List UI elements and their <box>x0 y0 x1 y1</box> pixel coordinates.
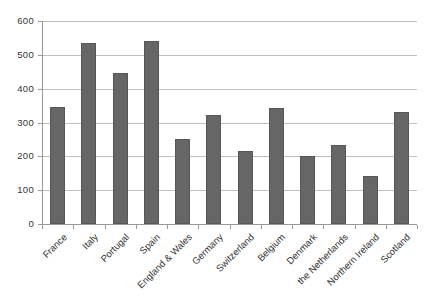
x-axis-tick <box>417 225 418 229</box>
x-axis-tick <box>230 225 231 229</box>
gridline <box>42 21 417 22</box>
x-axis-label: Scotland <box>379 232 412 265</box>
y-axis-label: 500 <box>0 50 34 60</box>
y-axis-label: 600 <box>0 16 34 26</box>
screenshot-root: 6005004003002001000FranceItalyPortugalSp… <box>0 0 435 308</box>
x-axis-tick <box>323 225 324 229</box>
bar <box>331 145 346 224</box>
bar <box>363 176 378 224</box>
x-axis-tick <box>355 225 356 229</box>
bar <box>269 108 284 224</box>
gridline <box>42 89 417 90</box>
gridline <box>42 156 417 157</box>
x-axis-tick <box>73 225 74 229</box>
y-axis-line <box>42 21 43 224</box>
x-axis-tick <box>167 225 168 229</box>
y-axis-label: 0 <box>0 219 34 229</box>
bar <box>50 107 65 224</box>
bar <box>144 41 159 224</box>
x-axis-label: France <box>41 232 69 260</box>
bar-chart: 6005004003002001000FranceItalyPortugalSp… <box>0 0 435 308</box>
bar <box>238 151 253 224</box>
bar <box>81 43 96 224</box>
x-axis-tick <box>386 225 387 229</box>
x-axis-tick <box>261 225 262 229</box>
x-axis-line <box>38 224 417 225</box>
x-axis-tick <box>292 225 293 229</box>
x-axis-label: Portugal <box>99 232 131 264</box>
y-axis-label: 100 <box>0 185 34 195</box>
x-axis-tick <box>136 225 137 229</box>
gridline <box>42 190 417 191</box>
x-axis-label: Spain <box>138 232 162 256</box>
y-axis-label: 400 <box>0 84 34 94</box>
bar <box>206 115 221 224</box>
bar <box>394 112 409 224</box>
gridline <box>42 123 417 124</box>
bar <box>300 156 315 224</box>
x-axis-label: Belgium <box>256 232 287 263</box>
y-axis-label: 300 <box>0 118 34 128</box>
bar <box>113 73 128 224</box>
x-axis-tick <box>105 225 106 229</box>
x-axis-label: Italy <box>81 232 100 251</box>
x-axis-tick <box>42 225 43 229</box>
gridline <box>42 55 417 56</box>
bar <box>175 139 190 224</box>
x-axis-tick <box>198 225 199 229</box>
y-axis-label: 200 <box>0 151 34 161</box>
